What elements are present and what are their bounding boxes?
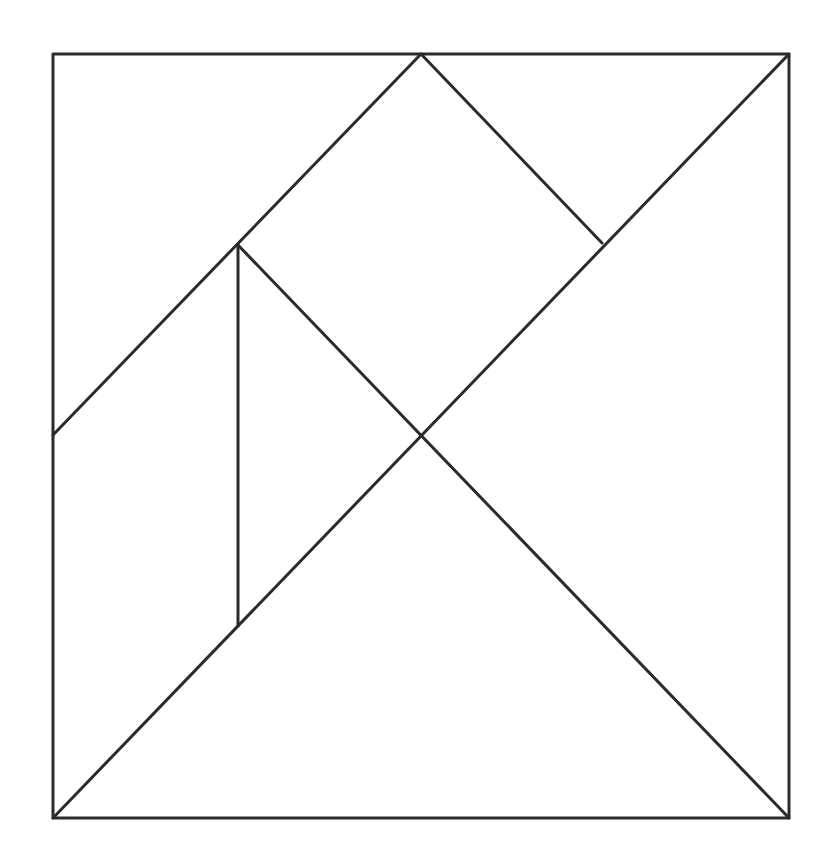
tangram-diagram xyxy=(0,0,839,862)
inner-anti-diagonal xyxy=(238,245,789,818)
top-right-diagonal-to-square xyxy=(421,54,602,243)
